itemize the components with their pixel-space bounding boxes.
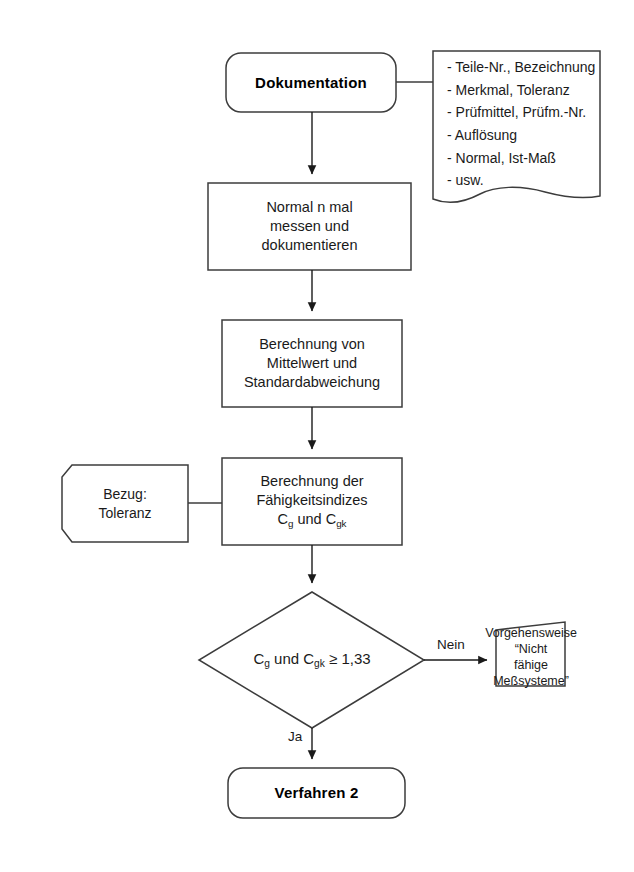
- shape-end-terminal: [228, 768, 405, 818]
- shape-reference-toleranz: [62, 465, 188, 542]
- shape-decision-diamond: [199, 592, 424, 728]
- shape-document-note: [433, 51, 600, 202]
- shape-not-capable-box: [496, 622, 565, 686]
- shape-process-calc-indices: [222, 458, 402, 545]
- shape-start-terminal: [226, 53, 396, 112]
- edge-label-nein: Nein: [437, 637, 465, 652]
- flowchart-shapes-layer: [0, 0, 634, 872]
- shape-process-calc-stats: [222, 320, 402, 407]
- shape-process-measure: [208, 183, 411, 270]
- edge-label-ja: Ja: [288, 729, 302, 744]
- flowchart-canvas: Dokumentation - Teile-Nr., Bezeichnung -…: [0, 0, 634, 872]
